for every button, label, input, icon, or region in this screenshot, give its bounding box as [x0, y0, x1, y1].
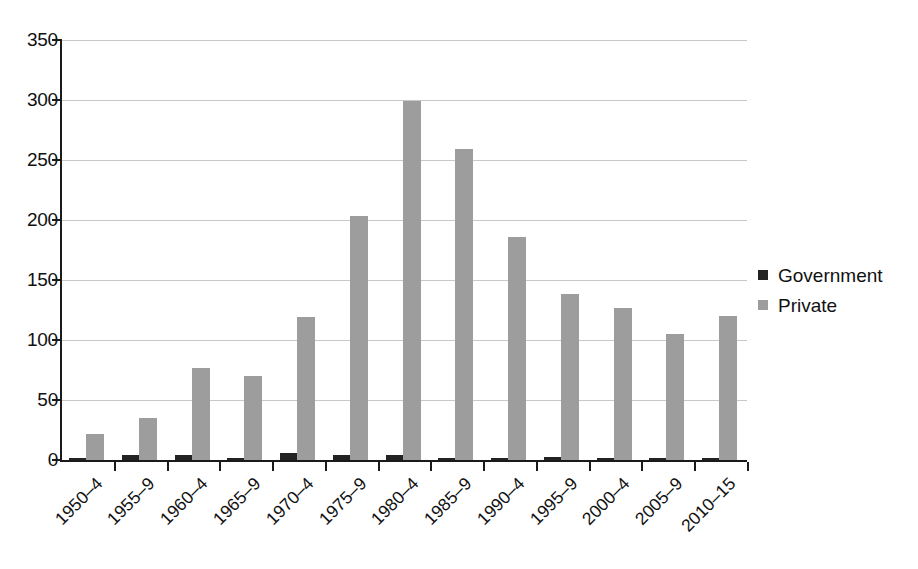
- bar-private: [192, 368, 210, 460]
- x-tick-mark: [167, 462, 169, 471]
- bar-group: [649, 40, 694, 460]
- y-tick-mark-250: [52, 159, 61, 161]
- bar-private: [403, 101, 421, 460]
- bar-chart: 050100150200250300350 1950–41955–91960–4…: [0, 0, 918, 569]
- x-tick-mark: [114, 462, 116, 471]
- bar-private: [508, 237, 526, 460]
- legend-item-private[interactable]: Private: [758, 290, 913, 320]
- bar-group: [122, 40, 167, 460]
- bar-group: [333, 40, 378, 460]
- bar-private: [666, 334, 684, 460]
- x-tick-label: 1980–4: [368, 474, 422, 528]
- bar-private: [86, 434, 104, 460]
- y-tick-mark-0: [52, 459, 61, 461]
- bar-group: [69, 40, 114, 460]
- plot-area: [61, 40, 747, 460]
- bar-private: [244, 376, 262, 460]
- x-tick-mark: [641, 462, 643, 471]
- x-tick-label: 1960–4: [157, 474, 211, 528]
- legend-swatch-private-icon: [758, 300, 768, 310]
- bar-private: [350, 216, 368, 460]
- y-tick-mark-200: [52, 219, 61, 221]
- y-tick-mark-150: [52, 279, 61, 281]
- bar-group: [386, 40, 431, 460]
- x-tick-label: 1955–9: [104, 474, 158, 528]
- x-tick-label: 1985–9: [421, 474, 475, 528]
- x-tick-label: 1975–9: [315, 474, 369, 528]
- bar-group: [702, 40, 747, 460]
- bar-private: [139, 418, 157, 460]
- x-tick-label: 1950–4: [51, 474, 105, 528]
- x-tick-mark: [325, 462, 327, 471]
- x-axis-line: [61, 460, 747, 462]
- x-tick-mark: [483, 462, 485, 471]
- x-tick-mark: [694, 462, 696, 471]
- legend-swatch-government-icon: [758, 270, 768, 280]
- bar-group: [597, 40, 642, 460]
- x-tick-label: 2000–4: [579, 474, 633, 528]
- bar-private: [614, 308, 632, 460]
- bar-group: [438, 40, 483, 460]
- x-tick-label: 1995–9: [526, 474, 580, 528]
- x-tick-mark: [272, 462, 274, 471]
- x-tick-mark: [747, 462, 749, 471]
- y-tick-mark-350: [52, 39, 61, 41]
- bar-group: [491, 40, 536, 460]
- x-tick-label: 1965–9: [210, 474, 264, 528]
- y-tick-mark-300: [52, 99, 61, 101]
- bar-private: [455, 149, 473, 460]
- x-tick-label: 1990–4: [474, 474, 528, 528]
- bar-private: [297, 317, 315, 460]
- legend-label-private: Private: [778, 296, 837, 315]
- y-tick-mark-50: [52, 399, 61, 401]
- x-tick-mark: [430, 462, 432, 471]
- x-tick-label: 2010–15: [678, 474, 739, 535]
- bar-group: [544, 40, 589, 460]
- bar-government: [280, 453, 297, 460]
- x-tick-mark: [536, 462, 538, 471]
- legend-item-government[interactable]: Government: [758, 260, 913, 290]
- bar-private: [561, 294, 579, 460]
- bar-group: [280, 40, 325, 460]
- bar-group: [227, 40, 272, 460]
- x-tick-label: 1970–4: [262, 474, 316, 528]
- x-tick-mark: [589, 462, 591, 471]
- y-tick-mark-100: [52, 339, 61, 341]
- legend-label-government: Government: [778, 266, 883, 285]
- bar-group: [175, 40, 220, 460]
- x-tick-mark: [378, 462, 380, 471]
- chart-legend: Government Private: [758, 260, 913, 320]
- bar-private: [719, 316, 737, 460]
- x-tick-mark: [219, 462, 221, 471]
- y-axis-ticks: 050100150200250300350: [0, 0, 58, 569]
